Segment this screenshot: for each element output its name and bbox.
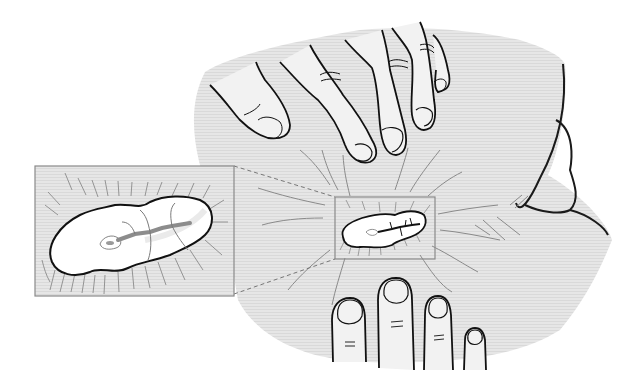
illustration-svg (0, 0, 636, 390)
illustration-canvas (0, 0, 636, 390)
inset-magnification (35, 166, 234, 296)
